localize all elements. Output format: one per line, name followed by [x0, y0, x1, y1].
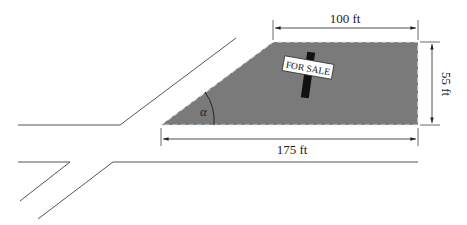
dimension-bottom: 175 ft — [161, 128, 418, 157]
dimension-right: 55 ft — [420, 42, 454, 125]
dimension-top: 100 ft — [273, 11, 418, 40]
dimension-top-label: 100 ft — [330, 11, 361, 26]
angle-label: α — [200, 104, 208, 119]
road-lower-right-edge — [38, 162, 418, 219]
dimension-bottom-label: 175 ft — [277, 142, 308, 157]
lot-diagram: α FOR SALE 100 ft 55 ft 175 ft — [0, 0, 467, 225]
road-lower-left-edge — [18, 162, 70, 201]
dimension-right-label: 55 ft — [439, 72, 454, 97]
